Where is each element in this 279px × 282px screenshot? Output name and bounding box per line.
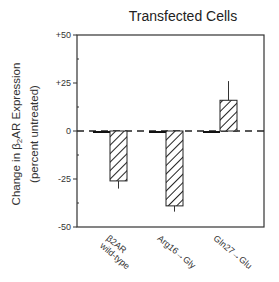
y-tick-label: -50 — [58, 222, 71, 232]
bar-control — [93, 131, 110, 133]
bar-treated — [110, 131, 127, 181]
bar-control — [203, 131, 220, 133]
y-tick-label: -25 — [58, 174, 71, 184]
bar-control — [149, 131, 166, 133]
y-tick-label: 0 — [66, 126, 71, 136]
plot-area: +50+250-25-50 — [0, 0, 279, 282]
y-tick-label: +25 — [56, 78, 71, 88]
bar-treated — [166, 131, 183, 206]
y-tick-label: +50 — [56, 30, 71, 40]
bar-treated — [220, 100, 237, 131]
bars — [93, 81, 237, 212]
